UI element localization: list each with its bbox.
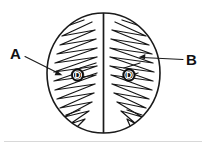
marker-left-d: D xyxy=(71,69,84,82)
diagram-canvas: D D A B xyxy=(0,0,206,146)
marker-right-d: D xyxy=(123,69,136,82)
marker-left-letter: D xyxy=(74,70,80,80)
figure-root: D D A B xyxy=(0,0,206,146)
label-a: A xyxy=(10,45,21,62)
marker-right-letter: D xyxy=(126,70,132,80)
label-b: B xyxy=(186,51,197,68)
